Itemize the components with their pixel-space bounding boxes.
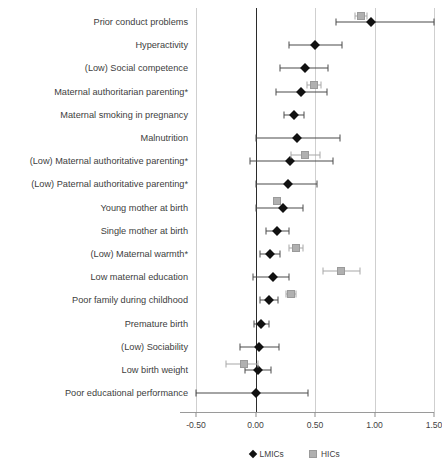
ci-cap <box>355 12 356 19</box>
hic-point-marker <box>301 151 309 159</box>
ci-cap <box>303 244 304 251</box>
ci-cap <box>288 227 289 234</box>
x-tick-label: 1.50 <box>426 420 442 430</box>
lmic-point-marker <box>251 388 261 398</box>
ci-cap <box>244 367 245 374</box>
ci-cap <box>278 297 279 304</box>
hic-point-marker <box>240 360 248 368</box>
x-tick-label: 0.00 <box>247 420 264 430</box>
lmic-point-marker <box>301 63 311 73</box>
ci-cap <box>332 158 333 165</box>
ci-cap <box>266 227 267 234</box>
lmic-point-marker <box>268 272 278 282</box>
ci-cap <box>291 151 292 158</box>
hic-point-marker <box>357 12 365 20</box>
legend-diamond-icon <box>248 450 256 458</box>
ci-cap <box>360 267 361 274</box>
ci-cap <box>240 343 241 350</box>
hic-point-marker <box>310 81 318 89</box>
lmic-point-marker <box>272 226 282 236</box>
ci-cap <box>317 181 318 188</box>
category-label: Poor educational performance <box>65 388 188 398</box>
lmic-point-marker <box>256 319 266 329</box>
x-tick-mark <box>315 412 316 417</box>
ci-cap <box>280 251 281 258</box>
ci-cap <box>257 360 258 367</box>
x-tick-mark <box>255 412 256 417</box>
hic-point-marker <box>287 290 295 298</box>
category-label: Hyperactivity <box>135 40 188 50</box>
lmic-point-marker <box>283 179 293 189</box>
ci-cap <box>336 19 337 26</box>
ci-cap <box>268 320 269 327</box>
ci-cap <box>249 158 250 165</box>
ci-cap <box>255 204 256 211</box>
lmic-point-marker <box>296 87 306 97</box>
category-label: Low birth weight <box>122 365 188 375</box>
x-tick-mark <box>374 412 375 417</box>
category-label: Poor family during childhood <box>72 295 188 305</box>
ci-cap <box>306 82 307 89</box>
ci-cap <box>326 88 327 95</box>
gridline <box>375 8 376 412</box>
ci-cap <box>255 181 256 188</box>
chart-legend: LMICsHICs <box>196 448 434 464</box>
category-label: (Low) Sociability <box>121 342 188 352</box>
ci-cap <box>288 244 289 251</box>
ci-cap <box>254 320 255 327</box>
ci-cap <box>323 267 324 274</box>
ci-cap <box>196 390 197 397</box>
category-label: (Low) Maternal authoritative parenting* <box>30 156 188 166</box>
hic-point-marker <box>292 244 300 252</box>
ci-cap <box>328 65 329 72</box>
gridline <box>434 8 435 412</box>
category-label: Malnutrition <box>141 133 189 143</box>
category-label: (Low) Paternal authoritative parenting* <box>31 179 188 189</box>
ci-cap <box>342 42 343 49</box>
category-label: Maternal authoritarian parenting* <box>54 87 188 97</box>
confidence-interval-bar <box>336 22 434 23</box>
ci-cap <box>320 82 321 89</box>
ci-cap <box>288 42 289 49</box>
x-tick-label: 1.00 <box>366 420 383 430</box>
gridline <box>196 8 197 412</box>
ci-cap <box>280 65 281 72</box>
ci-cap <box>319 151 320 158</box>
lmic-point-marker <box>265 249 275 259</box>
lmic-point-marker <box>310 40 320 50</box>
legend-label: LMICs <box>260 449 284 459</box>
category-label: Prior conduct problems <box>94 17 188 27</box>
ci-cap <box>303 204 304 211</box>
ci-cap <box>275 88 276 95</box>
category-label: Premature birth <box>125 319 188 329</box>
ci-cap <box>434 19 435 26</box>
legend-item-hics[interactable]: HICs <box>309 448 340 459</box>
x-tick-mark <box>196 412 197 417</box>
hic-point-marker <box>337 267 345 275</box>
category-label: (Low) Maternal warmth* <box>90 249 188 259</box>
x-tick-label: -0.50 <box>186 420 206 430</box>
legend-square-icon <box>309 450 317 458</box>
ci-cap <box>260 297 261 304</box>
category-label: Maternal smoking in pregnancy <box>60 110 188 120</box>
x-tick-label: 0.50 <box>307 420 324 430</box>
ci-cap <box>307 390 308 397</box>
ci-cap <box>304 111 305 118</box>
hic-point-marker <box>273 197 281 205</box>
x-axis-line <box>180 412 434 413</box>
ci-cap <box>225 360 226 367</box>
ci-cap <box>367 12 368 19</box>
legend-item-lmics[interactable]: LMICs <box>250 448 284 459</box>
legend-label: HICs <box>321 449 340 459</box>
ci-cap <box>279 343 280 350</box>
category-label: (Low) Social competence <box>85 63 188 73</box>
ci-cap <box>288 274 289 281</box>
lmic-point-marker <box>289 110 299 120</box>
ci-cap <box>284 111 285 118</box>
lmic-point-marker <box>264 295 274 305</box>
category-label: Young mother at birth <box>100 203 188 213</box>
ci-cap <box>339 135 340 142</box>
category-label: Low maternal education <box>90 272 188 282</box>
category-label: Single mother at birth <box>101 226 188 236</box>
